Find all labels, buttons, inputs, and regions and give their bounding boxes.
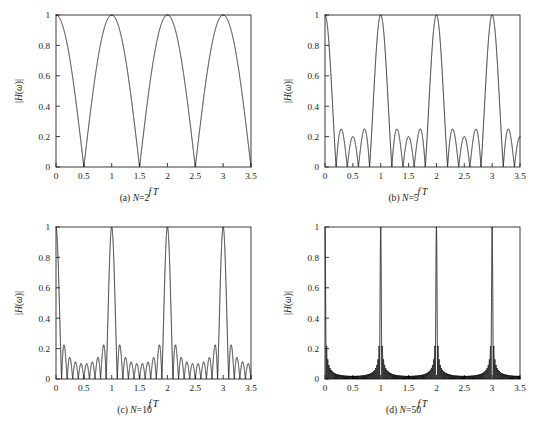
plot-area-d: 00.511.522.533.500.20.40.60.81fT|H(ω)| [269,212,538,424]
caption-value: =50 [406,404,421,415]
x-tick-label: 0.5 [78,171,90,181]
x-tick-label: 2.5 [190,171,202,181]
caption-prefix: (c) [117,404,130,415]
x-tick-label: 2 [434,383,439,393]
figure-root: 00.511.522.533.500.20.40.60.81fT|H(ω)| (… [0,0,538,424]
data-curve [325,227,520,379]
x-tick-label: 2.5 [459,171,471,181]
y-tick-label: 1 [45,222,50,232]
caption-prefix: (d) [386,404,400,415]
panel-b: 00.511.522.533.500.20.40.60.81fT|H(ω)| (… [269,0,538,212]
x-tick-label: 3 [221,171,226,181]
y-axis-title: |H(ω)| [282,291,294,315]
x-tick-label: 1 [378,383,383,393]
x-tick-label: 1 [378,171,383,181]
caption-value: =5 [408,192,418,203]
plot-area-a: 00.511.522.533.500.20.40.60.81fT|H(ω)| [0,0,269,212]
panel-d: 00.511.522.533.500.20.40.60.81fT|H(ω)| (… [269,212,538,424]
panel-caption-d: (d) N=50 [269,404,538,415]
y-tick-label: 1 [45,10,50,20]
data-curve [56,227,251,379]
y-tick-label: 0 [45,162,50,172]
x-tick-label: 0 [54,383,59,393]
x-tick-label: 1.5 [403,383,415,393]
x-tick-label: 2 [434,171,439,181]
y-tick-label: 0.6 [308,283,320,293]
x-tick-label: 2.5 [459,383,471,393]
y-tick-label: 0.6 [308,71,320,81]
x-tick-label: 0 [323,171,328,181]
x-tick-label: 3 [221,383,226,393]
panel-caption-c: (c) N=10 [0,404,269,415]
y-tick-label: 0.2 [39,132,51,142]
x-tick-label: 2 [165,383,170,393]
plot-frame [56,15,251,167]
x-tick-label: 3 [490,171,495,181]
x-tick-label: 1.5 [134,171,146,181]
panel-c: 00.511.522.533.500.20.40.60.81fT|H(ω)| (… [0,212,269,424]
y-tick-label: 0.2 [308,132,320,142]
x-tick-label: 0.5 [78,383,90,393]
x-tick-label: 0 [323,383,328,393]
panel-a: 00.511.522.533.500.20.40.60.81fT|H(ω)| (… [0,0,269,212]
y-tick-label: 1 [314,222,319,232]
plot-svg: 00.511.522.533.500.20.40.60.81fT|H(ω)| [269,0,538,212]
y-tick-label: 0 [314,162,319,172]
x-tick-label: 3.5 [514,171,526,181]
y-tick-label: 0.8 [308,253,320,263]
plot-area-c: 00.511.522.533.500.20.40.60.81fT|H(ω)| [0,212,269,424]
x-tick-label: 3 [490,383,495,393]
x-tick-label: 2 [165,171,170,181]
y-axis-title: |H(ω)| [13,291,25,315]
panel-caption-a: (a) N=2 [0,192,269,203]
plot-frame [325,15,520,167]
y-tick-label: 0.2 [308,344,320,354]
caption-prefix: (a) [120,192,133,203]
x-tick-label: 3.5 [245,171,257,181]
panel-caption-b: (b) N=5 [269,192,538,203]
y-tick-label: 0 [314,374,319,384]
data-curve [56,15,251,167]
plot-svg: 00.511.522.533.500.20.40.60.81fT|H(ω)| [0,0,269,212]
x-tick-label: 1 [109,383,114,393]
plot-area-b: 00.511.522.533.500.20.40.60.81fT|H(ω)| [269,0,538,212]
y-tick-label: 1 [314,10,319,20]
y-axis-title: |H(ω)| [13,79,25,103]
x-tick-label: 1.5 [403,171,415,181]
caption-value: =10 [137,404,152,415]
x-tick-label: 2.5 [190,383,202,393]
x-tick-label: 1.5 [134,383,146,393]
y-tick-label: 0.6 [39,71,51,81]
y-tick-label: 0.8 [308,41,320,51]
y-tick-label: 0 [45,374,50,384]
y-tick-label: 0.8 [39,253,51,263]
x-tick-label: 3.5 [245,383,257,393]
y-tick-label: 0.4 [308,314,320,324]
caption-prefix: (b) [388,192,402,203]
y-tick-label: 0.8 [39,41,51,51]
x-tick-label: 0 [54,171,59,181]
data-curve [325,15,520,167]
y-tick-label: 0.6 [39,283,51,293]
plot-svg: 00.511.522.533.500.20.40.60.81fT|H(ω)| [269,212,538,424]
y-tick-label: 0.4 [308,102,320,112]
plot-svg: 00.511.522.533.500.20.40.60.81fT|H(ω)| [0,212,269,424]
x-tick-label: 1 [109,171,114,181]
y-tick-label: 0.4 [39,102,51,112]
x-tick-label: 3.5 [514,383,526,393]
y-tick-label: 0.4 [39,314,51,324]
x-tick-label: 0.5 [347,383,359,393]
caption-value: =2 [139,192,149,203]
x-tick-label: 0.5 [347,171,359,181]
y-axis-title: |H(ω)| [282,79,294,103]
y-tick-label: 0.2 [39,344,51,354]
